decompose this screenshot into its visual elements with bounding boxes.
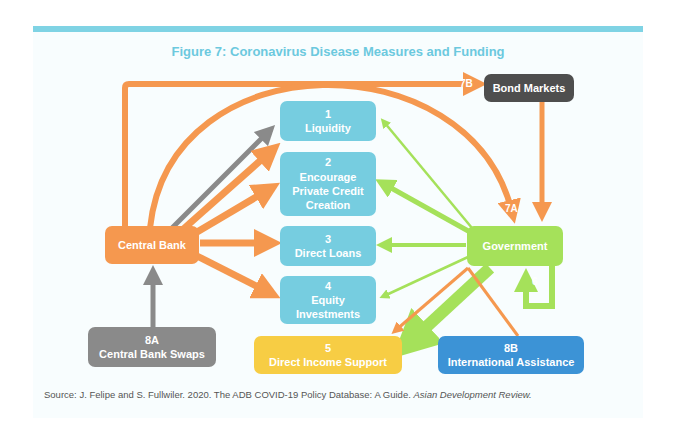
source-journal: Asian Development Review. <box>413 389 531 400</box>
direct-loans-label: Direct Loans <box>295 246 362 260</box>
source-note: Source: J. Felipe and S. Fullwiler. 2020… <box>44 389 532 400</box>
private-credit-label2: Private Credit <box>292 184 364 198</box>
private-credit-label1: Encourage <box>300 170 357 184</box>
cb-swaps-num: 8A <box>145 333 159 347</box>
cb-swaps-label: Central Bank Swaps <box>99 347 205 361</box>
income-support-num: 5 <box>325 341 331 355</box>
equity-node: 4 Equity Investments <box>280 276 376 324</box>
bond-markets-label: Bond Markets <box>493 81 566 95</box>
private-credit-label3: Creation <box>306 198 351 212</box>
edge-label-7b: 7B <box>460 78 473 89</box>
central-bank-node: Central Bank <box>105 226 199 264</box>
intl-assistance-node: 8B International Assistance <box>438 336 584 374</box>
private-credit-num: 2 <box>325 155 331 169</box>
edge-label-6: 6 <box>532 276 538 287</box>
cb-swaps-node: 8A Central Bank Swaps <box>88 327 216 367</box>
equity-label2: Investments <box>296 307 360 321</box>
intl-assistance-label: International Assistance <box>448 355 575 369</box>
equity-num: 4 <box>325 279 331 293</box>
central-bank-label: Central Bank <box>118 238 186 252</box>
direct-loans-node: 3 Direct Loans <box>280 226 376 266</box>
income-support-node: 5 Direct Income Support <box>254 336 402 374</box>
direct-loans-num: 3 <box>325 232 331 246</box>
intl-assistance-num: 8B <box>504 341 518 355</box>
edge-label-7a: 7A <box>505 203 518 214</box>
equity-label1: Equity <box>311 293 345 307</box>
private-credit-node: 2 Encourage Private Credit Creation <box>280 152 376 216</box>
liquidity-node: 1 Liquidity <box>280 101 376 141</box>
government-node: Government <box>467 226 563 266</box>
income-support-label: Direct Income Support <box>269 355 387 369</box>
government-label: Government <box>483 239 548 253</box>
source-text: Source: J. Felipe and S. Fullwiler. 2020… <box>44 389 413 400</box>
liquidity-num: 1 <box>325 107 331 121</box>
bond-markets-node: Bond Markets <box>484 74 574 102</box>
liquidity-label: Liquidity <box>305 121 351 135</box>
